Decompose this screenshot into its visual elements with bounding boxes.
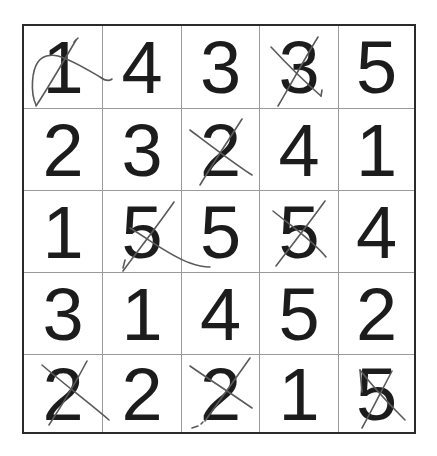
grid-cell-r3c5[interactable]: 4	[339, 191, 414, 273]
grid-cell-r5c3[interactable]: 2	[182, 355, 260, 432]
grid-cell-r4c1[interactable]: 3	[24, 273, 103, 355]
grid-cell-r2c3[interactable]: 2	[182, 109, 260, 191]
grid-cell-r5c4[interactable]: 1	[260, 355, 339, 432]
grid-cell-r5c5[interactable]: 5	[339, 355, 414, 432]
grid-cell-r2c1[interactable]: 2	[24, 109, 103, 191]
grid-cell-r4c4[interactable]: 5	[260, 273, 339, 355]
grid-cell-r5c2[interactable]: 2	[103, 355, 182, 432]
grid-cell-r2c5[interactable]: 1	[339, 109, 414, 191]
grid-cell-r3c3[interactable]: 5	[182, 191, 260, 273]
number-grid: 1 4 3 3 5 2 3 2 4 1 1 5 5 5 4 3 1 4 5 2 …	[22, 24, 416, 434]
grid-cell-r1c1[interactable]: 1	[24, 26, 103, 109]
grid-cell-r4c5[interactable]: 2	[339, 273, 414, 355]
grid-cell-r1c3[interactable]: 3	[182, 26, 260, 109]
grid-cell-r1c2[interactable]: 4	[103, 26, 182, 109]
grid-cell-r2c2[interactable]: 3	[103, 109, 182, 191]
grid-cell-r2c4[interactable]: 4	[260, 109, 339, 191]
grid-cell-r3c4[interactable]: 5	[260, 191, 339, 273]
grid-cell-r4c3[interactable]: 4	[182, 273, 260, 355]
grid-cell-r3c1[interactable]: 1	[24, 191, 103, 273]
grid-cell-r1c4[interactable]: 3	[260, 26, 339, 109]
grid-cell-r1c5[interactable]: 5	[339, 26, 414, 109]
grid-cell-r3c2[interactable]: 5	[103, 191, 182, 273]
grid-cell-r4c2[interactable]: 1	[103, 273, 182, 355]
grid-cell-r5c1[interactable]: 2	[24, 355, 103, 432]
